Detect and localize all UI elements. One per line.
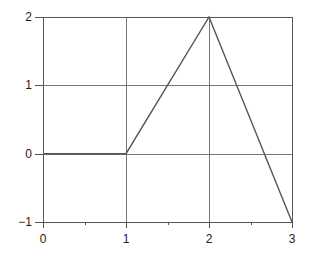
grid-lines [43, 17, 293, 223]
y-tick-label: 0 [25, 147, 32, 161]
y-tick-label: 1 [25, 78, 32, 92]
data-series [43, 17, 292, 222]
line-chart: 0123 −1012 [0, 0, 311, 255]
x-axis-tick-labels: 0123 [40, 232, 296, 246]
x-tick-label: 3 [289, 232, 296, 246]
axis-ticks [35, 18, 293, 229]
x-tick-label: 0 [40, 232, 47, 246]
y-tick-label: −1 [18, 215, 32, 229]
plot-border [44, 18, 293, 223]
y-tick-label: 2 [25, 10, 32, 24]
y-axis-tick-labels: −1012 [18, 10, 32, 229]
plot-frame [44, 18, 293, 223]
x-tick-label: 1 [123, 232, 130, 246]
x-tick-label: 2 [206, 232, 213, 246]
series-line [43, 17, 292, 222]
